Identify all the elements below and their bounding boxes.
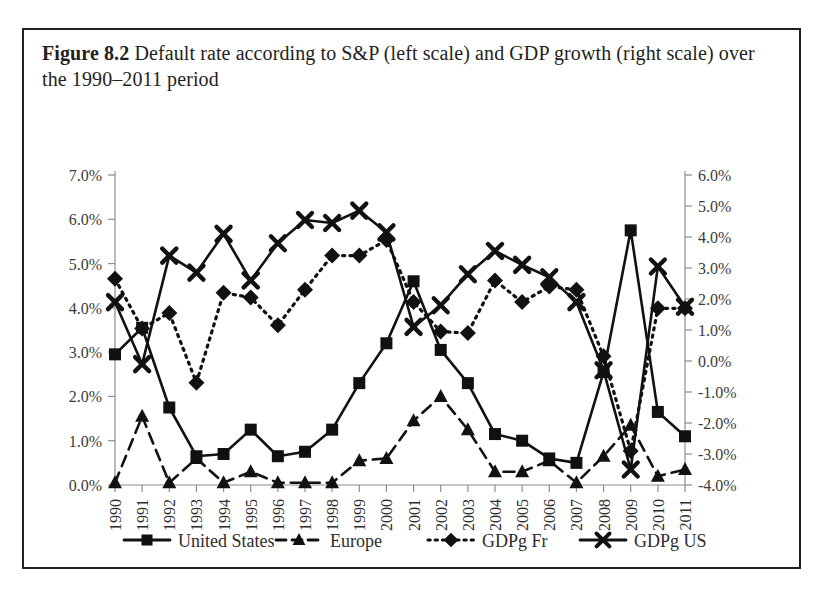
x-axis-tick-label: 1994: [216, 499, 233, 531]
marker-triangle: [434, 389, 448, 402]
marker-square: [489, 428, 501, 440]
series-united-states: [109, 224, 691, 469]
right-axis-tick-label: 0.0%: [698, 353, 731, 370]
series-europe: [108, 389, 692, 488]
series-line: [115, 396, 685, 482]
marker-cross: [271, 236, 285, 250]
marker-diamond: [487, 272, 503, 288]
figure-number: Figure 8.2: [42, 42, 129, 64]
left-axis-tick-label: 3.0%: [69, 344, 102, 361]
left-axis-tick-label: 0.0%: [69, 477, 102, 494]
marker-diamond: [216, 285, 232, 301]
legend-label: Europe: [330, 531, 382, 551]
marker-square: [570, 457, 582, 469]
x-axis-tick-label: 2011: [677, 499, 694, 530]
marker-square: [353, 377, 365, 389]
marker-diamond: [324, 248, 340, 264]
series-line: [115, 240, 685, 451]
marker-cross: [352, 204, 366, 218]
marker-square: [380, 337, 392, 349]
series-line: [115, 211, 685, 470]
marker-cross: [407, 320, 421, 334]
marker-triangle: [407, 413, 421, 426]
marker-square: [408, 275, 420, 287]
left-axis-tick-label: 5.0%: [69, 256, 102, 273]
chart-plot-area: 0.0%1.0%2.0%3.0%4.0%5.0%6.0%7.0%-4.0%-3.…: [24, 126, 803, 571]
marker-cross: [189, 266, 203, 280]
marker-square: [163, 402, 175, 414]
legend-label: GDPg US: [634, 531, 707, 551]
marker-cross: [434, 298, 448, 312]
marker-square: [679, 430, 691, 442]
left-axis-tick-label: 4.0%: [69, 300, 102, 317]
x-axis-tick-label: 2010: [650, 499, 667, 531]
right-axis-tick-label: -3.0%: [698, 446, 737, 463]
right-axis-tick-label: -4.0%: [698, 477, 737, 494]
marker-cross: [217, 227, 231, 241]
legend-item-gdpg-fr[interactable]: GDPg Fr: [428, 531, 548, 551]
x-axis-tick-label: 1996: [270, 499, 287, 531]
series-gdpg-fr: [107, 232, 693, 459]
legend-label: GDPg Fr: [482, 531, 548, 551]
x-axis-tick-label: 2009: [623, 499, 640, 531]
x-axis-tick-label: 2007: [568, 499, 585, 531]
x-axis-tick-label: 1993: [188, 499, 205, 531]
x-axis-tick-label: 2008: [596, 499, 613, 531]
x-axis-tick-label: 1992: [161, 499, 178, 531]
marker-diamond: [297, 282, 313, 298]
right-axis-tick-label: 4.0%: [698, 229, 731, 246]
marker-cross: [461, 267, 475, 281]
right-axis-tick-label: -2.0%: [698, 415, 737, 432]
series-gdpg-us: [108, 204, 692, 477]
left-axis-tick-label: 7.0%: [69, 167, 102, 184]
legend-label: United States: [178, 531, 275, 551]
right-axis-tick-label: 3.0%: [698, 260, 731, 277]
figure-caption: Figure 8.2 Default rate according to S&P…: [42, 40, 762, 92]
x-axis-tick-label: 1997: [297, 499, 314, 531]
marker-cross: [488, 244, 502, 258]
marker-cross: [244, 273, 258, 287]
right-axis-tick-label: 5.0%: [698, 198, 731, 215]
x-axis-tick-label: 1999: [351, 499, 368, 531]
right-axis-tick-label: 2.0%: [698, 291, 731, 308]
marker-square: [435, 344, 447, 356]
marker-diamond: [444, 533, 459, 548]
chart-legend: United StatesEuropeGDPg FrGDPg US: [124, 531, 707, 551]
marker-square: [141, 534, 152, 545]
marker-square: [652, 406, 664, 418]
left-axis-tick-label: 2.0%: [69, 388, 102, 405]
marker-square: [272, 450, 284, 462]
right-axis-tick-label: -1.0%: [698, 384, 737, 401]
marker-triangle: [135, 409, 149, 422]
legend-item-gdpg-us[interactable]: GDPg US: [580, 531, 707, 551]
marker-diamond: [188, 375, 204, 391]
marker-diamond: [270, 317, 286, 333]
marker-cross: [515, 258, 529, 272]
x-axis-tick-label: 2006: [541, 499, 558, 531]
marker-square: [462, 377, 474, 389]
x-axis-tick-label: 1990: [107, 499, 124, 531]
left-axis-tick-label: 1.0%: [69, 433, 102, 450]
marker-diamond: [107, 271, 123, 287]
figure-frame: Figure 8.2 Default rate according to S&P…: [22, 28, 801, 569]
marker-square: [516, 435, 528, 447]
x-axis-tick-label: 2001: [406, 499, 423, 531]
marker-triangle: [244, 464, 258, 477]
line-chart: 0.0%1.0%2.0%3.0%4.0%5.0%6.0%7.0%-4.0%-3.…: [24, 126, 803, 571]
x-axis-tick-label: 2005: [514, 499, 531, 531]
x-axis-tick-label: 2003: [460, 499, 477, 531]
marker-diamond: [351, 248, 367, 264]
legend-item-united-states[interactable]: United States: [124, 531, 275, 551]
x-axis-tick-label: 1998: [324, 499, 341, 531]
figure-caption-text: Default rate according to S&P (left scal…: [42, 42, 755, 90]
x-axis-tick-label: 2002: [433, 499, 450, 531]
x-axis-tick-label: 1991: [134, 499, 151, 531]
right-axis-tick-label: 1.0%: [698, 322, 731, 339]
marker-diamond: [161, 305, 177, 321]
marker-triangle: [108, 475, 122, 488]
marker-square: [326, 424, 338, 436]
x-axis-tick-label: 1995: [243, 499, 260, 531]
legend-item-europe[interactable]: Europe: [276, 531, 382, 551]
marker-square: [245, 424, 257, 436]
marker-square: [299, 446, 311, 458]
